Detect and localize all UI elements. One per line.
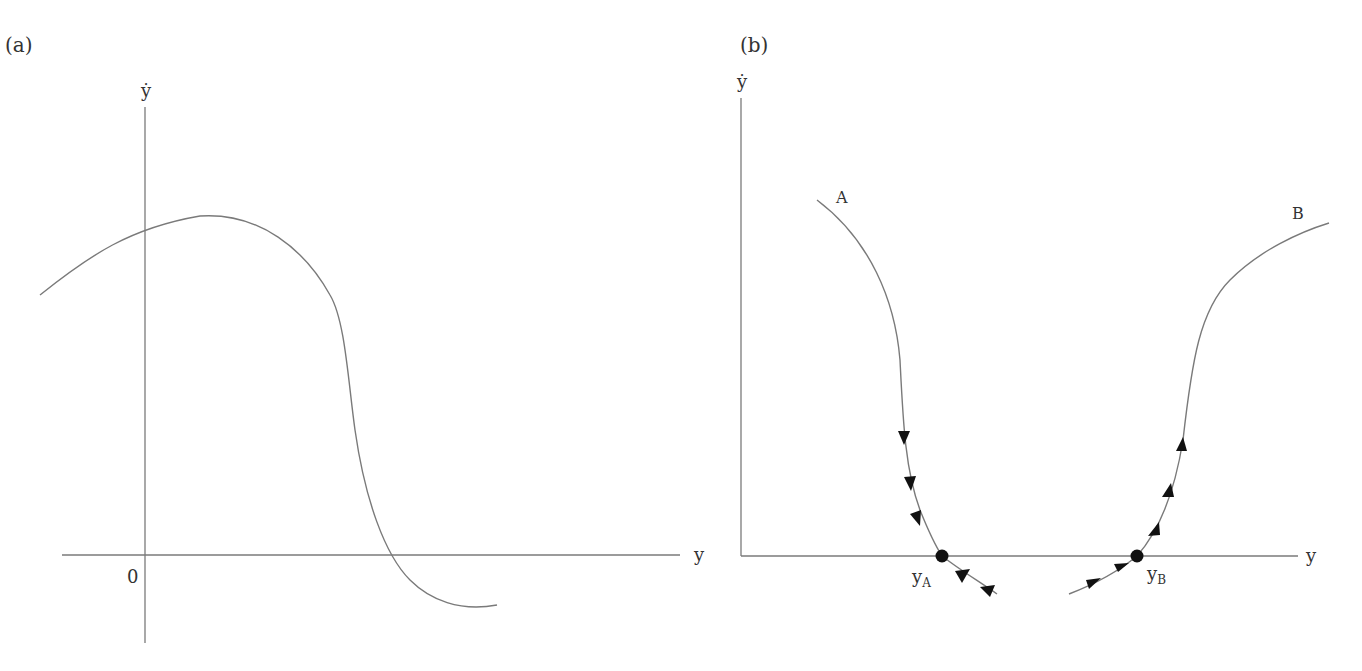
arrow-down-icon: [910, 510, 921, 526]
fixed-point-yb-label: yB: [1146, 563, 1166, 587]
arrow-down-icon: [898, 431, 910, 445]
panel-b-y-axis-label: ẏ: [736, 71, 748, 92]
curve-b-path: [1069, 223, 1329, 594]
curve-a: A yA: [817, 188, 997, 597]
panel-a-x-axis-label: y: [693, 544, 705, 565]
panel-a-y-axis-label: ẏ: [140, 80, 152, 101]
fixed-point-ya: [936, 550, 949, 563]
panel-b-label: (b): [740, 33, 768, 57]
panel-a-origin-label: 0: [127, 566, 138, 587]
arrow-up-icon: [1162, 483, 1174, 497]
panel-b-x-axis-label: y: [1305, 545, 1317, 566]
curve-b: B yB: [1069, 204, 1329, 594]
curve-a-path: [817, 200, 997, 594]
fixed-point-ya-label: yA: [911, 566, 931, 590]
arrow-up-icon: [1176, 437, 1187, 451]
fixed-point-yb: [1131, 550, 1144, 563]
arrow-left-icon: [1086, 578, 1101, 589]
arrow-down-icon: [904, 476, 916, 491]
panel-a-curve: [40, 216, 497, 607]
arrow-left-icon: [955, 569, 970, 583]
curve-b-label: B: [1292, 204, 1304, 223]
curve-a-label: A: [835, 188, 848, 207]
panel-b: (b) ẏ y A yA B: [736, 33, 1329, 597]
panel-a: (a) ẏ y 0: [5, 33, 705, 643]
phase-diagram-figure: (a) ẏ y 0 (b) ẏ y A yA: [0, 0, 1362, 671]
panel-a-label: (a): [5, 33, 33, 57]
arrow-up-icon: [1148, 522, 1160, 536]
